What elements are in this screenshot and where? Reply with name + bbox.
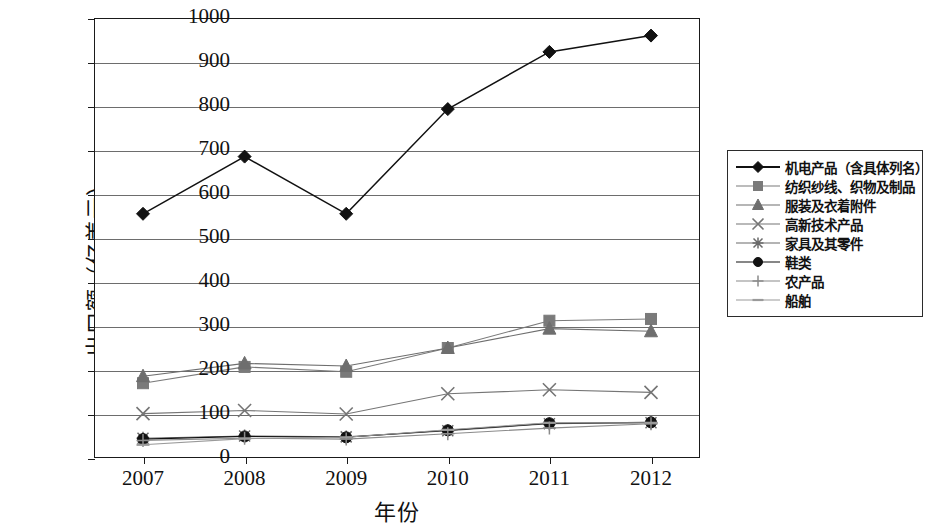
y-axis-label: 800 [199,94,231,115]
legend-item-4[interactable]: 家具及其零件 [728,233,922,252]
y-axis-label: 0 [220,446,231,467]
legend-item-1[interactable]: 纺织纱线、织物及制品 [728,176,922,195]
legend-item-3[interactable]: 高新技术产品 [728,214,922,233]
legend-label: 鞋类 [785,252,811,272]
plot-area [94,18,700,458]
x-axis-tick [246,457,247,464]
legend-item-0[interactable]: 机电产品（含具体列名） [728,157,922,176]
x-axis-label: 2010 [427,468,469,489]
x-axis-tick [347,457,348,464]
data-point-diamond [753,161,764,172]
legend-item-7[interactable]: 船舶 [728,290,922,309]
x-axis-label: 2012 [630,468,672,489]
x-axis-tick [550,457,551,464]
x-axis-label: 2008 [224,468,266,489]
x-axis-title: 年份 [94,494,700,526]
gridline [95,107,699,108]
y-axis-tick [88,239,95,240]
gridline [95,239,699,240]
y-axis-tick [88,151,95,152]
legend-label: 机电产品（含具体列名） [785,157,928,177]
y-axis-label: 200 [199,358,231,379]
gridline [95,283,699,284]
y-axis-tick [88,195,95,196]
legend-marker-dash-icon [734,291,782,309]
x-axis-tick [449,457,450,464]
x-axis-label: 2009 [325,468,367,489]
legend-label: 服装及衣着附件 [785,195,876,215]
legend-marker-circle-icon [734,253,782,271]
x-axis-tick [652,457,653,464]
x-axis-tick [144,457,145,464]
y-axis-label: 700 [199,138,231,159]
legend-marker-plus-icon [734,272,782,290]
x-axis-label: 2007 [122,468,164,489]
legend-marker-x-icon [734,215,782,233]
y-axis-label: 300 [199,314,231,335]
gridline [95,327,699,328]
legend-label: 纺织纱线、织物及制品 [785,176,915,196]
y-axis-tick [88,63,95,64]
gridline [95,195,699,196]
y-axis-tick [88,371,95,372]
gridline [95,63,699,64]
gridline [95,415,699,416]
y-axis-label: 1000 [188,6,230,27]
legend-marker-triangle-icon [734,196,782,214]
y-axis-label: 600 [199,182,231,203]
y-axis-label: 500 [199,226,231,247]
legend-item-6[interactable]: 农产品 [728,271,922,290]
legend-item-2[interactable]: 服装及衣着附件 [728,195,922,214]
y-axis-tick [88,415,95,416]
y-axis-label: 400 [199,270,231,291]
data-point-triangle [753,199,764,210]
chart-page: 出口额（亿美元） 年份 机电产品（含具体列名）纺织纱线、织物及制品服装及衣着附件… [0,0,934,529]
gridline [95,371,699,372]
y-axis-tick [88,283,95,284]
x-axis-label: 2011 [529,468,570,489]
y-axis-tick [88,19,95,20]
legend-label: 家具及其零件 [785,233,863,253]
chart-legend: 机电产品（含具体列名）纺织纱线、织物及制品服装及衣着附件高新技术产品家具及其零件… [727,150,923,317]
legend-label: 船舶 [785,290,811,310]
legend-label: 农产品 [785,271,824,291]
y-axis-tick [88,107,95,108]
data-point-asterisk [753,237,764,248]
y-axis-label: 900 [199,50,231,71]
data-point-circle [754,257,763,266]
legend-marker-asterisk-icon [734,234,782,252]
y-axis-label: 100 [199,402,231,423]
gridline [95,151,699,152]
data-point-plus [753,275,764,286]
legend-marker-square-icon [734,177,782,195]
legend-marker-diamond-icon [734,158,782,176]
legend-item-5[interactable]: 鞋类 [728,252,922,271]
y-axis-tick [88,327,95,328]
y-axis-tick [88,459,95,460]
legend-label: 高新技术产品 [785,214,863,234]
data-point-square [754,181,763,190]
